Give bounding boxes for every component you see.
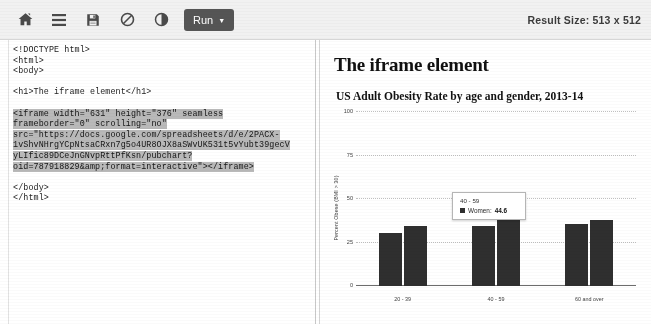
chevron-down-icon: ▼ [218, 17, 225, 24]
y-tick-label: 0 [350, 282, 353, 288]
code-playground-window: Run ▼ Result Size: 513 x 512 <!DOCTYPE h… [0, 0, 651, 324]
result-preview-pane: The iframe element US Adult Obesity Rate… [320, 40, 651, 324]
y-axis-label: Percent Obese (BMI > 30) [333, 175, 339, 240]
tooltip-row: Women: 44.6 [460, 207, 517, 214]
y-tick-label: 100 [344, 108, 353, 114]
x-tick-label: 20 - 39 [356, 296, 449, 302]
save-icon[interactable] [76, 5, 110, 35]
home-icon[interactable] [8, 5, 42, 35]
result-size-label: Result Size: 513 x 512 [527, 14, 641, 26]
bar-group [543, 112, 636, 286]
tooltip-value: 44.6 [495, 207, 507, 214]
tooltip-category: 40 - 59 [460, 197, 517, 204]
bar-men-1[interactable] [472, 226, 495, 286]
chart-plot-area: Percent Obese (BMI > 30) 0255075100 20 -… [334, 108, 644, 308]
no-entry-icon[interactable] [110, 5, 144, 35]
tooltip-color-swatch-icon [460, 208, 465, 213]
code-editor-pane[interactable]: <!DOCTYPE html> <html> <body> <h1>The if… [0, 40, 316, 324]
page-title: The iframe element [334, 54, 651, 76]
run-button-label: Run [193, 14, 213, 26]
toolbar: Run ▼ Result Size: 513 x 512 [0, 0, 651, 40]
bar-women-2[interactable] [590, 220, 613, 286]
tooltip-series-name: Women: [468, 207, 492, 214]
bar-women-0[interactable] [404, 226, 427, 286]
contrast-icon[interactable] [144, 5, 178, 35]
bar-group [356, 112, 449, 286]
chart-title: US Adult Obesity Rate by age and gender,… [336, 90, 644, 102]
x-tick-label: 60 and over [543, 296, 636, 302]
y-tick-label: 75 [347, 152, 353, 158]
code-before: <!DOCTYPE html> <html> <body> <h1>The if… [13, 45, 151, 97]
bar-women-1[interactable] [497, 208, 520, 286]
obesity-bar-chart: US Adult Obesity Rate by age and gender,… [334, 90, 644, 322]
run-button[interactable]: Run ▼ [184, 9, 234, 31]
bar-men-0[interactable] [379, 233, 402, 286]
code-after: </body> </html> [13, 183, 49, 204]
code-selected-iframe[interactable]: <iframe width="631" height="376" seamles… [13, 109, 290, 172]
y-tick-label: 25 [347, 239, 353, 245]
menu-icon[interactable] [42, 5, 76, 35]
chart-tooltip: 40 - 59 Women: 44.6 [452, 192, 526, 220]
y-tick-label: 50 [347, 195, 353, 201]
editor-gutter [0, 40, 9, 324]
code-editor-content[interactable]: <!DOCTYPE html> <html> <body> <h1>The if… [0, 40, 315, 208]
bar-men-2[interactable] [565, 224, 588, 286]
x-axis-labels: 20 - 3940 - 5960 and over [356, 296, 636, 302]
split-view: <!DOCTYPE html> <html> <body> <h1>The if… [0, 40, 651, 324]
x-tick-label: 40 - 59 [449, 296, 542, 302]
